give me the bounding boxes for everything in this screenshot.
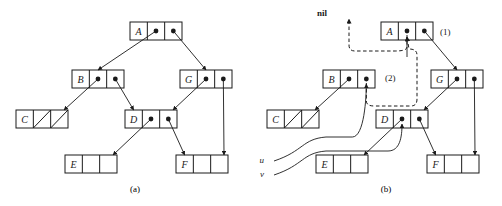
node-label: G (185, 74, 192, 85)
nodes-layer: ABGCDEFABGCDEF (16, 22, 483, 173)
step-1-label: (1) (440, 27, 451, 37)
figure-container: ABGCDEFABGCDEF uv nil(1)(2) (a) (b) (0, 0, 502, 206)
node-label: E (70, 159, 77, 170)
node-label: F (432, 159, 440, 170)
pointer-link (474, 79, 475, 155)
node-label: A (135, 26, 143, 37)
node-c: C (16, 110, 68, 128)
step-2-label: (2) (385, 73, 396, 83)
node-label: C (21, 114, 28, 125)
node-label: D (380, 114, 389, 125)
pointer-v-label: v (260, 169, 264, 179)
caption-panel-b: (b) (356, 184, 416, 194)
nil-label: nil (317, 8, 328, 18)
pointer-link (173, 31, 206, 70)
pointer-dot (405, 29, 410, 34)
pointer-dot (364, 77, 369, 82)
caption-panel-a: (a) (105, 184, 165, 194)
diagram-svg: ABGCDEFABGCDEF uv nil(1)(2) (0, 0, 502, 206)
node-label: B (78, 74, 84, 85)
node-e: E (65, 155, 117, 173)
node-e: E (316, 155, 368, 173)
pointer-u-label: u (260, 155, 265, 165)
pointer-link (98, 31, 156, 70)
node-label: B (329, 74, 335, 85)
node-c: C (267, 110, 319, 128)
node-label: A (386, 26, 394, 37)
pointer-link (223, 79, 224, 155)
node-f: F (427, 155, 479, 173)
node-f: F (176, 155, 228, 173)
node-label: E (321, 159, 328, 170)
node-label: D (129, 114, 138, 125)
node-label: F (181, 159, 189, 170)
node-label: C (272, 114, 279, 125)
node-label: G (436, 74, 443, 85)
